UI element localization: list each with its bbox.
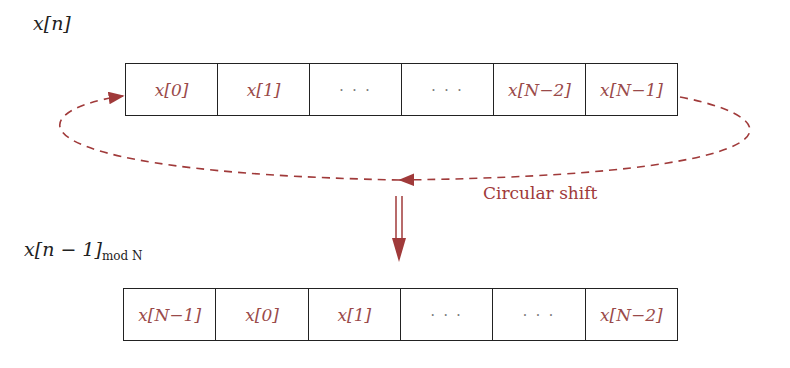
array-cell: x[N−1] xyxy=(124,289,216,340)
array-cell: x[N−2] xyxy=(586,289,677,340)
double-down-arrow-icon xyxy=(392,196,406,262)
array-cell: x[0] xyxy=(216,289,308,340)
dashed-arc-right xyxy=(400,97,750,180)
bottom-array-label: x[n − 1]mod N xyxy=(24,238,142,263)
array-cell: x[1] xyxy=(309,289,401,340)
circular-shift-caption: Circular shift xyxy=(483,183,597,203)
array-cell-ellipsis: · · · xyxy=(493,289,585,340)
bottom-array: x[N−1] x[0] x[1] · · · · · · x[N−2] xyxy=(123,288,678,341)
array-cell-ellipsis: · · · xyxy=(401,289,493,340)
dashed-arc-left xyxy=(60,96,400,180)
